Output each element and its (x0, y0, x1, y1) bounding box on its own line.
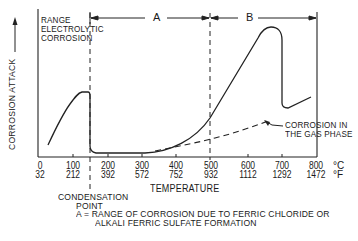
range-a-label: A (149, 12, 164, 23)
unit-fahrenheit: °F (333, 170, 343, 180)
tick-f-392: 392 (93, 170, 124, 180)
x-axis-label: TEMPERATURE (150, 184, 219, 193)
tick-f-932: 932 (196, 170, 227, 180)
tick-f-212: 212 (58, 170, 89, 180)
tick-f-1472: 1472 (301, 170, 332, 180)
gas-phase-curve (155, 121, 268, 151)
leader-arrow-icon (264, 120, 270, 126)
y-axis-arrow-icon (13, 17, 18, 52)
tick-f-1292: 1292 (267, 170, 298, 180)
tick-f-572: 572 (127, 170, 158, 180)
corrosion-diagram: CORROSION ATTACK RANGE ELECTROLYTIC CORR… (0, 0, 358, 241)
tick-f-32: 32 (25, 170, 56, 180)
y-axis-label: CORROSION ATTACK (6, 59, 17, 150)
range-b-label: B (242, 12, 257, 23)
tick-f-752: 752 (161, 170, 192, 180)
tick-f-1112: 1112 (233, 170, 264, 180)
footnote-line2: ALKALI FERRIC SULFATE FORMATION (95, 218, 257, 227)
gas-phase-label-line2: THE GAS PHASE (285, 130, 353, 139)
corrosion-curve (48, 27, 311, 153)
dimension-arrows (90, 12, 316, 24)
range-label-line3: CORROSION (41, 34, 93, 43)
